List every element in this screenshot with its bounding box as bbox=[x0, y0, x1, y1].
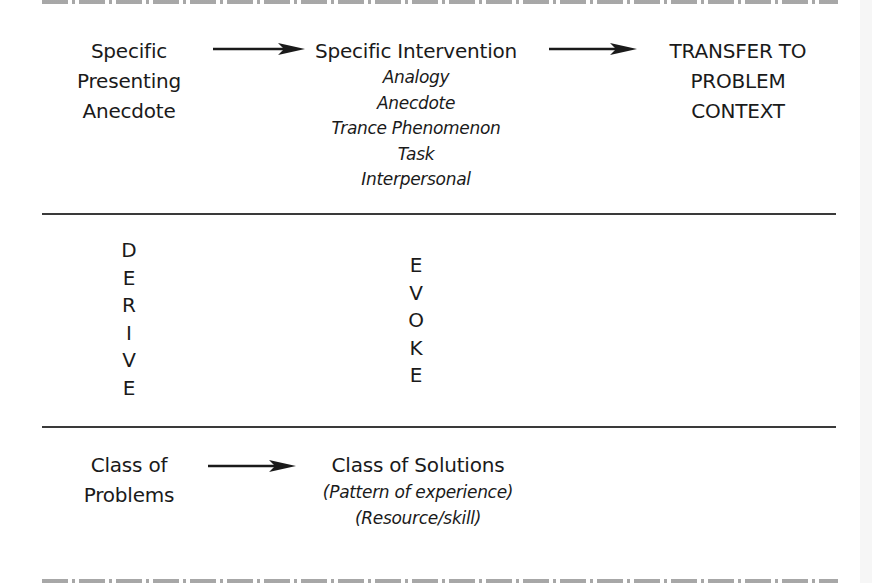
transfer-line-3: CONTEXT bbox=[640, 96, 836, 126]
derive-letter: V bbox=[114, 347, 144, 375]
evoke-letter: E bbox=[401, 252, 431, 280]
class-problems-line-1: Class of bbox=[66, 450, 192, 480]
intervention-title: Specific Intervention bbox=[298, 36, 534, 66]
derive-letter: D bbox=[114, 237, 144, 265]
solutions-detail-pattern: (Pattern of experience) bbox=[300, 480, 536, 506]
class-problems-line-2: Problems bbox=[66, 480, 192, 510]
bottom-decorative-border bbox=[42, 579, 838, 583]
specific-intervention: Specific Intervention Analogy Anecdote T… bbox=[298, 36, 534, 193]
derive-letter: I bbox=[114, 320, 144, 348]
derive-vertical-label: D E R I V E bbox=[114, 237, 144, 402]
divider-line-upper bbox=[42, 213, 836, 215]
evoke-letter: K bbox=[401, 335, 431, 363]
derive-letter: R bbox=[114, 292, 144, 320]
arrow-right-icon bbox=[548, 42, 638, 56]
class-of-problems: Class of Problems bbox=[66, 450, 192, 510]
derive-letter: E bbox=[114, 265, 144, 293]
top-decorative-border bbox=[42, 0, 838, 4]
anecdote-line-3: Anecdote bbox=[62, 96, 196, 126]
specific-presenting-anecdote: Specific Presenting Anecdote bbox=[62, 36, 196, 126]
divider-line-lower bbox=[42, 426, 836, 428]
solutions-detail-resource: (Resource/skill) bbox=[300, 506, 536, 532]
anecdote-line-1: Specific bbox=[62, 36, 196, 66]
arrow-right-icon bbox=[212, 42, 306, 56]
transfer-line-2: PROBLEM bbox=[640, 66, 836, 96]
evoke-letter: E bbox=[401, 362, 431, 390]
intervention-type-interpersonal: Interpersonal bbox=[298, 167, 534, 193]
evoke-letter: O bbox=[401, 307, 431, 335]
derive-letter: E bbox=[114, 375, 144, 403]
class-solutions-title: Class of Solutions bbox=[300, 450, 536, 480]
transfer-to-problem-context: TRANSFER TO PROBLEM CONTEXT bbox=[640, 36, 836, 126]
intervention-type-anecdote: Anecdote bbox=[298, 91, 534, 117]
evoke-vertical-label: E V O K E bbox=[401, 252, 431, 390]
intervention-type-analogy: Analogy bbox=[298, 65, 534, 91]
transfer-line-1: TRANSFER TO bbox=[640, 36, 836, 66]
evoke-letter: V bbox=[401, 280, 431, 308]
class-of-solutions: Class of Solutions (Pattern of experienc… bbox=[300, 450, 536, 531]
intervention-type-trance: Trance Phenomenon bbox=[298, 116, 534, 142]
arrow-right-icon bbox=[207, 459, 297, 473]
anecdote-line-2: Presenting bbox=[62, 66, 196, 96]
page-edge-strip bbox=[860, 0, 872, 583]
intervention-type-task: Task bbox=[298, 142, 534, 168]
